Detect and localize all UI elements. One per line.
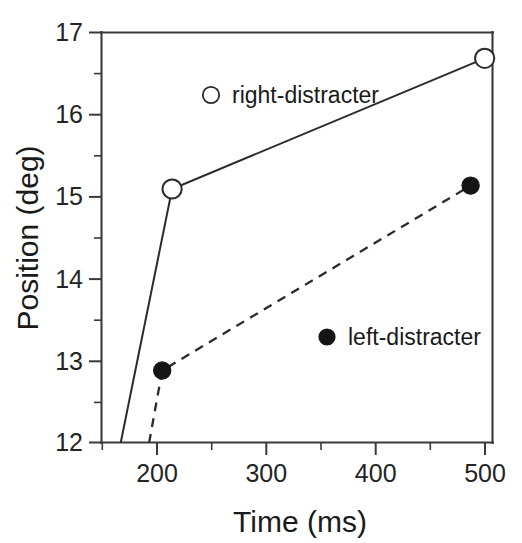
x-axis-title: Time (ms)	[233, 505, 367, 538]
data-point-left-distracter-1	[154, 362, 171, 379]
chart-figure: 17 16 15 14 13 12 200 300 400 500 Time (…	[0, 0, 522, 543]
y-tick-label-14: 14	[55, 265, 83, 293]
data-point-right-distracter-1	[163, 179, 182, 198]
legend-entry-right-distracter[interactable]: right-distracter	[203, 82, 380, 108]
y-tick-label-17: 17	[55, 18, 83, 46]
chart-plot-area: 17 16 15 14 13 12 200 300 400 500 Time (…	[0, 0, 522, 543]
y-axis-ticks	[89, 33, 102, 443]
legend-label-right-distracter: right-distracter	[232, 82, 379, 108]
y-axis-title: Position (deg)	[11, 145, 44, 330]
y-tick-label-12: 12	[55, 428, 83, 456]
x-tick-label-400: 400	[355, 459, 397, 487]
series-line-right-distracter	[121, 58, 485, 443]
x-tick-label-200: 200	[136, 459, 178, 487]
x-tick-label-300: 300	[245, 459, 287, 487]
x-tick-label-500: 500	[464, 459, 506, 487]
y-tick-label-15: 15	[55, 182, 83, 210]
legend-marker-filled-circle-icon	[319, 329, 335, 345]
legend-entry-left-distracter[interactable]: left-distracter	[319, 324, 481, 350]
y-tick-label-16: 16	[55, 100, 83, 128]
legend: right-distracter left-distracter	[203, 82, 481, 350]
data-point-right-distracter-2	[475, 49, 494, 68]
x-axis-ticks	[102, 443, 485, 456]
x-tick-labels: 200 300 400 500	[136, 459, 506, 487]
legend-label-left-distracter: left-distracter	[348, 324, 481, 350]
y-tick-label-13: 13	[55, 347, 83, 375]
data-series-group	[121, 58, 485, 443]
legend-marker-open-circle-icon	[203, 87, 219, 103]
series-line-left-distracter	[149, 186, 471, 443]
y-tick-labels: 17 16 15 14 13 12	[55, 18, 83, 456]
data-point-left-distracter-2	[462, 177, 479, 194]
